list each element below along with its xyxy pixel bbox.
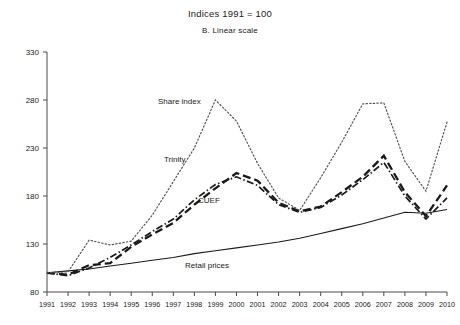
x-tick-label: 2010 — [439, 300, 455, 309]
x-tick-label: 2003 — [292, 300, 308, 309]
y-tick-label: 130 — [26, 240, 40, 249]
x-tick-label: 2001 — [250, 300, 266, 309]
series-label-cuef: CUEF — [198, 196, 220, 205]
series-label-retail-prices: Retail prices — [185, 261, 229, 270]
x-tick-label: 2007 — [376, 300, 392, 309]
x-tick-label: 1991 — [39, 300, 55, 309]
x-tick-label: 1993 — [81, 300, 97, 309]
y-axis: 80130180230280330 — [26, 48, 47, 297]
series-paths — [47, 100, 447, 276]
x-tick-label: 1995 — [123, 300, 139, 309]
x-tick-label: 2004 — [313, 300, 329, 309]
x-tick-label: 1999 — [207, 300, 223, 309]
x-tick-label: 1996 — [144, 300, 160, 309]
x-tick-label: 1997 — [165, 300, 181, 309]
series-label-trinity: Trinity — [164, 155, 185, 164]
series-line-trinity — [47, 156, 447, 275]
x-tick-label: 2008 — [397, 300, 413, 309]
series-line-cuef — [47, 162, 447, 275]
x-tick-label: 2005 — [334, 300, 350, 309]
x-tick-label: 1998 — [186, 300, 202, 309]
x-tick-label: 2006 — [355, 300, 371, 309]
x-tick-label: 2000 — [228, 300, 244, 309]
y-tick-label: 230 — [26, 144, 40, 153]
x-axis: 1991199219931994199519961997199819992000… — [39, 292, 455, 309]
y-tick-label: 330 — [26, 48, 40, 57]
y-tick-label: 180 — [26, 192, 40, 201]
chart-plot: 80130180230280330 1991199219931994199519… — [0, 0, 460, 325]
x-tick-label: 1994 — [102, 300, 118, 309]
x-tick-label: 1992 — [60, 300, 76, 309]
x-tick-label: 2002 — [271, 300, 287, 309]
series-label-share-index: Share index — [158, 97, 201, 106]
y-tick-label: 280 — [26, 96, 40, 105]
x-tick-label: 2009 — [418, 300, 434, 309]
y-tick-label: 80 — [30, 288, 39, 297]
chart-container: Indices 1991 = 100 B. Linear scale 80130… — [0, 0, 460, 325]
